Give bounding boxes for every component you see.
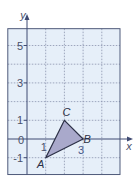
y-tick-label-5: 5: [17, 40, 23, 52]
x-tick-label-1: 1: [41, 141, 47, 153]
vertex-label-c: C: [62, 106, 70, 118]
y-tick-label-neg1: -1: [13, 152, 23, 164]
x-tick-label-3: 3: [78, 144, 84, 156]
origin-label: 0: [18, 134, 24, 146]
grid-background: [8, 29, 120, 175]
y-tick-label-1: 1: [17, 114, 23, 126]
x-axis-label: x: [125, 140, 132, 152]
vertex-label-b: B: [83, 133, 90, 145]
y-tick-label-3: 3: [17, 77, 23, 89]
coordinate-diagram: yx0531-113ABC: [0, 0, 138, 183]
vertex-label-a: A: [36, 158, 44, 170]
